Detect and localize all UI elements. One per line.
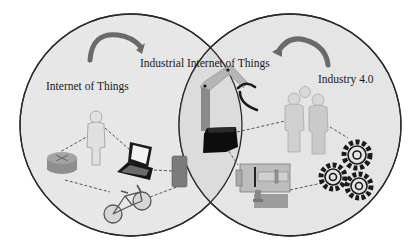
router-icon <box>47 152 77 174</box>
intersection-label: Industrial Internet of Things <box>140 57 270 69</box>
set-label-industry-4-0: Industry 4.0 <box>318 73 374 85</box>
venn-diagram: Internet of Things Industrial Internet o… <box>0 0 415 251</box>
set-label-internet-of-things: Internet of Things <box>46 80 129 92</box>
phone-icon <box>172 156 187 187</box>
